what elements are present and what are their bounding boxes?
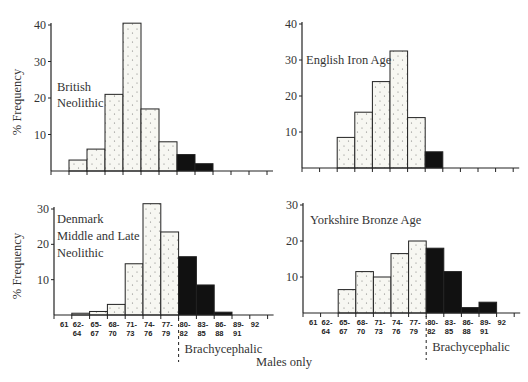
y-tick-label: 10 xyxy=(34,128,46,142)
bar-83-85 xyxy=(444,272,462,313)
bin-label: 77- xyxy=(162,320,173,329)
brachycephalic-label: Brachycephalic xyxy=(432,340,510,354)
bin-label: 61 xyxy=(309,318,317,327)
bin-label: 68- xyxy=(108,320,119,329)
bin-label: 74- xyxy=(144,320,155,329)
bin-label: 76 xyxy=(144,329,152,338)
bar-77-79 xyxy=(159,142,177,171)
bin-label: 64 xyxy=(73,329,82,338)
bin-label: 76 xyxy=(392,327,400,336)
panel-title: British xyxy=(57,80,92,94)
panel-title: Neolithic xyxy=(57,246,104,260)
bar-80-82 xyxy=(426,248,444,313)
y-tick-label: 10 xyxy=(285,125,297,139)
y-tick-label: 20 xyxy=(37,237,49,251)
y-tick-label: 20 xyxy=(34,91,46,105)
y-tick-label: 10 xyxy=(286,270,298,284)
bar-86-88 xyxy=(461,308,479,313)
bin-label: 71- xyxy=(374,318,385,327)
bin-label: 91 xyxy=(480,327,488,336)
bar-77-79 xyxy=(408,118,426,168)
bin-label: 79 xyxy=(162,329,170,338)
bin-label: 92 xyxy=(498,318,506,327)
bin-label: 65- xyxy=(91,320,102,329)
bin-label: 86- xyxy=(215,320,226,329)
bin-label: 77- xyxy=(410,318,421,327)
histogram-panel-2: 10203040English Iron Age xyxy=(285,17,519,172)
bin-label: 85 xyxy=(197,329,205,338)
bin-label: 85 xyxy=(445,327,453,336)
bar-62-64 xyxy=(69,160,87,171)
bin-label: 61 xyxy=(60,320,68,329)
bar-74-76 xyxy=(390,51,408,168)
panel-title: Denmark xyxy=(57,212,104,226)
bin-label: 86- xyxy=(462,318,473,327)
cephalic-index-histograms: 10203040BritishNeolithic% Frequency10203… xyxy=(0,0,528,382)
brachycephalic-label: Brachycephalic xyxy=(185,342,263,356)
bin-label: 65- xyxy=(339,318,350,327)
y-tick-label: 10 xyxy=(37,273,49,287)
histogram-panel-3: 102030DenmarkMiddle and LateNeolithic% F… xyxy=(10,202,274,362)
bar-71-73 xyxy=(373,277,391,313)
bin-label: 83- xyxy=(197,320,208,329)
bar-65-67 xyxy=(87,149,105,171)
bar-83-85 xyxy=(195,164,213,171)
bin-label: 71- xyxy=(126,320,137,329)
bar-74-76 xyxy=(141,109,159,171)
bar-68-70 xyxy=(356,272,374,313)
bar-77-79 xyxy=(161,232,179,315)
bar-80-82 xyxy=(425,152,443,168)
footer-label: Males only xyxy=(256,355,313,369)
y-tick-label: 30 xyxy=(285,53,297,67)
bin-label: 70 xyxy=(357,327,365,336)
bin-label: 92 xyxy=(251,320,259,329)
bin-label: 64 xyxy=(322,327,331,336)
bar-65-67 xyxy=(338,290,356,313)
bar-65-67 xyxy=(337,137,355,168)
bin-label: 80- xyxy=(180,320,191,329)
panel-title: Middle and Late xyxy=(57,229,140,243)
bar-80-82 xyxy=(177,155,195,171)
bar-71-73 xyxy=(125,264,143,315)
bar-83-85 xyxy=(196,285,214,315)
histogram-panel-4: 102030Yorkshire Bronze Age6162-6465-6768… xyxy=(286,198,520,360)
bar-68-70 xyxy=(107,304,125,315)
y-tick-label: 20 xyxy=(285,89,297,103)
bin-label: 67 xyxy=(339,327,347,336)
bin-label: 73 xyxy=(126,329,134,338)
bar-71-73 xyxy=(123,23,141,171)
bin-label: 83- xyxy=(445,318,456,327)
bar-80-82 xyxy=(179,257,197,315)
bar-74-76 xyxy=(391,254,409,313)
bin-label: 67 xyxy=(91,329,99,338)
panel-title: Neolithic xyxy=(57,96,104,110)
bar-68-70 xyxy=(105,94,123,171)
bin-label: 74- xyxy=(392,318,403,327)
bar-74-76 xyxy=(143,204,161,315)
bin-label: 91 xyxy=(233,329,241,338)
bin-label: 73 xyxy=(374,327,382,336)
y-tick-label: 40 xyxy=(34,18,46,32)
y-axis-label: % Frequency xyxy=(10,232,24,299)
y-tick-label: 30 xyxy=(37,202,49,216)
bin-label: 89- xyxy=(233,320,244,329)
panel-title: English Iron Age xyxy=(306,53,392,67)
bin-label: 62- xyxy=(322,318,333,327)
y-tick-label: 20 xyxy=(286,234,298,248)
bin-label: 89- xyxy=(480,318,491,327)
bin-label: 79 xyxy=(410,327,418,336)
bar-89-91 xyxy=(479,302,497,313)
bin-label: 82 xyxy=(180,329,188,338)
y-tick-label: 40 xyxy=(285,17,297,31)
panel-title: Yorkshire Bronze Age xyxy=(310,213,422,227)
bin-label: 88 xyxy=(462,327,470,336)
bin-label: 62- xyxy=(73,320,84,329)
y-axis-label: % Frequency xyxy=(10,68,24,135)
histogram-panel-1: 10203040BritishNeolithic% Frequency xyxy=(10,18,273,175)
bin-label: 80- xyxy=(427,318,438,327)
bar-71-73 xyxy=(372,82,390,168)
y-tick-label: 30 xyxy=(286,198,298,212)
bin-label: 68- xyxy=(357,318,368,327)
bin-label: 82 xyxy=(427,327,435,336)
bin-label: 88 xyxy=(215,329,223,338)
